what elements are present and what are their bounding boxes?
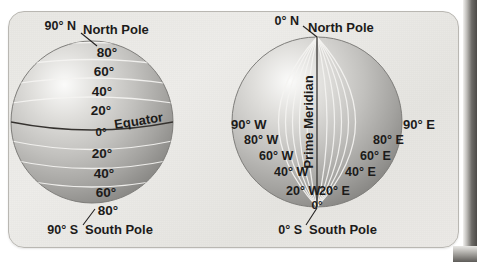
lat-tick-s40: 40°	[94, 166, 114, 181]
lat-tick-equator: 0°	[96, 126, 107, 138]
north-pole-tick-label: 0° N	[275, 14, 299, 28]
north-pole-name-label: North Pole	[308, 20, 374, 35]
lat-tick-s80: 80°	[98, 203, 118, 218]
longitude-globe-svg: Prime Meridian 0° N North Pole 90° W 80°…	[227, 12, 458, 247]
page-edge-shadow-bottom	[453, 246, 477, 262]
lon-tick-w90: 90° W	[231, 117, 267, 132]
lon-tick-e60: 60° E	[360, 149, 391, 163]
lon-tick-w40: 40° W	[274, 165, 308, 179]
lat-tick-n20: 20°	[91, 103, 111, 118]
figure-latitude-longitude: 90° N North Pole 80° 60° 40° 20° 0° Equa…	[0, 0, 477, 262]
south-pole-name-label: South Pole	[85, 222, 153, 237]
lat-tick-s60: 60°	[96, 185, 116, 200]
lon-tick-e90: 90° E	[403, 117, 435, 132]
south-pole-name-label: South Pole	[309, 222, 377, 237]
lon-tick-e20: 20° E	[319, 184, 350, 198]
lat-tick-n80: 80°	[97, 45, 117, 60]
latitude-globe-svg: 90° N North Pole 80° 60° 40° 20° 0° Equa…	[9, 12, 239, 247]
latitude-globe: 90° N North Pole 80° 60° 40° 20° 0° Equa…	[9, 12, 239, 247]
lon-tick-w80: 80° W	[244, 133, 278, 147]
figure-panel: 90° N North Pole 80° 60° 40° 20° 0° Equa…	[8, 11, 459, 248]
south-pole-tick-label: 90° S	[47, 223, 78, 237]
lon-tick-e80: 80° E	[373, 133, 404, 147]
prime-meridian-label: Prime Meridian	[301, 75, 316, 168]
lat-tick-n60: 60°	[94, 64, 114, 79]
lat-tick-n40: 40°	[92, 84, 112, 99]
lat-tick-s20: 20°	[92, 146, 112, 161]
longitude-globe: Prime Meridian 0° N North Pole 90° W 80°…	[227, 12, 458, 247]
north-pole-name-label: North Pole	[83, 22, 149, 37]
lon-tick-w20: 20° W	[286, 184, 320, 198]
page-edge-shadow	[463, 0, 477, 262]
lon-tick-w60: 60° W	[259, 149, 293, 163]
lon-tick-zero: 0°	[312, 199, 323, 211]
north-pole-tick-label: 90° N	[45, 19, 76, 33]
lon-tick-e40: 40° E	[345, 165, 376, 179]
south-pole-tick-label: 0° S	[278, 223, 302, 237]
